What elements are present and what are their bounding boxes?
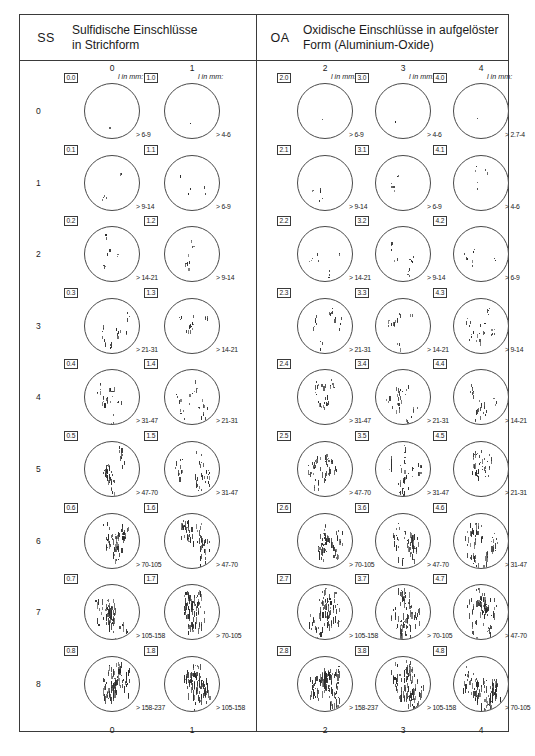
inclusion-mark [466, 666, 467, 668]
rating-cell-4.8[interactable]: 4.8> 70-105 [433, 646, 535, 724]
cell-badge-2.0: 2.0 [277, 73, 291, 83]
inclusion-mark [114, 480, 115, 483]
inclusion-mark [401, 678, 402, 682]
inclusion-mark [325, 681, 326, 684]
inclusion-mark [419, 692, 420, 696]
inclusion-mark [103, 688, 104, 695]
inclusion-mark [479, 455, 480, 457]
rating-cell-1.5[interactable]: 1.5> 31-47 [144, 431, 262, 509]
rating-cell-1.0[interactable]: 1.0> 4-6 [144, 73, 262, 151]
inclusion-mark [325, 397, 326, 399]
inclusion-mark [107, 522, 108, 526]
inclusion-mark [481, 403, 482, 405]
inclusion-mark [495, 685, 496, 688]
inclusion-mark [338, 530, 339, 532]
inclusion-mark [175, 467, 176, 469]
inclusion-mark [391, 186, 392, 188]
inclusion-mark [481, 450, 482, 453]
inclusion-mark [479, 333, 480, 334]
inclusion-mark [486, 690, 487, 691]
inclusion-mark [475, 560, 476, 563]
inclusion-mark [109, 527, 110, 530]
inclusion-mark [493, 545, 494, 547]
inclusion-mark [407, 543, 408, 548]
inclusion-mark [180, 175, 181, 176]
rating-cell-4.3[interactable]: 4.3> 9-14 [433, 288, 535, 366]
inclusion-mark [398, 175, 399, 177]
inclusion-field-3.1 [375, 155, 431, 211]
rating-cell-1.8[interactable]: 1.8> 105-158 [144, 646, 262, 724]
inclusion-mark [120, 330, 121, 333]
inclusion-mark [467, 258, 468, 260]
inclusion-mark [117, 333, 118, 336]
inclusion-mark [106, 197, 107, 200]
inclusion-mark [412, 476, 413, 477]
inclusion-mark [316, 461, 317, 464]
rating-cell-4.0[interactable]: 4.0> 2.7-4 [433, 73, 535, 151]
inclusion-mark [332, 460, 333, 464]
inclusion-mark [470, 391, 471, 393]
inclusion-mark [324, 533, 325, 536]
inclusion-mark [489, 466, 490, 468]
inclusion-mark [108, 535, 109, 536]
inclusion-mark [417, 679, 418, 682]
rating-cell-4.7[interactable]: 4.7> 47-70 [433, 574, 535, 652]
inclusion-mark [318, 488, 319, 491]
inclusion-mark [316, 323, 317, 325]
inclusion-mark [333, 617, 334, 624]
inclusion-mark [99, 608, 100, 612]
row-label-1: 1 [36, 178, 41, 188]
inclusion-mark [320, 341, 321, 342]
inclusion-mark [112, 474, 113, 476]
inclusion-mark [106, 694, 107, 697]
rating-cell-1.6[interactable]: 1.6> 47-70 [144, 503, 262, 581]
inclusion-field-4.0 [453, 83, 509, 139]
inclusion-mark [117, 402, 118, 403]
inclusion-mark [491, 329, 492, 331]
inclusion-mark [477, 118, 478, 119]
rating-cell-1.4[interactable]: 1.4> 21-31 [144, 359, 262, 437]
inclusion-mark [188, 268, 189, 271]
inclusion-mark [116, 328, 117, 331]
rating-cell-4.5[interactable]: 4.5> 21-31 [433, 431, 535, 509]
inclusion-mark [115, 680, 116, 685]
inclusion-mark [109, 610, 110, 616]
inclusion-mark [328, 685, 329, 688]
header-title-ss: Sulfidische Einschlüsse in Strichform [72, 23, 203, 52]
inclusion-mark [470, 680, 471, 685]
inclusion-mark [478, 531, 479, 535]
inclusion-mark [201, 541, 202, 543]
inclusion-mark [488, 314, 489, 315]
inclusion-mark [201, 454, 202, 456]
rating-cell-4.4[interactable]: 4.4> 14-21 [433, 359, 535, 437]
inclusion-mark [472, 387, 473, 391]
inclusion-mark [403, 599, 404, 601]
inclusion-mark [418, 701, 419, 706]
inclusion-mark [418, 542, 419, 548]
rating-cell-1.7[interactable]: 1.7> 70-105 [144, 574, 262, 652]
inclusion-mark [470, 531, 471, 536]
inclusion-mark [393, 186, 394, 188]
rating-cell-1.1[interactable]: 1.1> 6-9 [144, 145, 262, 223]
inclusion-mark [342, 531, 343, 535]
inclusion-mark [106, 682, 107, 685]
inclusion-mark [326, 542, 327, 545]
inclusion-mark [483, 412, 484, 414]
rating-cell-1.2[interactable]: 1.2> 9-14 [144, 216, 262, 294]
rating-cell-4.2[interactable]: 4.2> 6-9 [433, 216, 535, 294]
rating-cell-4.1[interactable]: 4.1> 4-6 [433, 145, 535, 223]
inclusion-field-0.4 [84, 369, 140, 425]
cell-badge-2.3: 2.3 [277, 288, 291, 298]
inclusion-mark [470, 557, 471, 560]
inclusion-mark [471, 692, 472, 695]
inclusion-mark [187, 670, 188, 672]
inclusion-mark [319, 679, 320, 681]
inclusion-mark [322, 691, 323, 698]
inclusion-mark [489, 628, 490, 634]
rating-cell-1.3[interactable]: 1.3> 14-21 [144, 288, 262, 366]
rating-cell-4.6[interactable]: 4.6> 31-47 [433, 503, 535, 581]
inclusion-mark [119, 626, 120, 629]
inclusion-mark [324, 690, 325, 693]
inclusion-mark [127, 312, 128, 315]
inclusion-mark [205, 561, 206, 565]
